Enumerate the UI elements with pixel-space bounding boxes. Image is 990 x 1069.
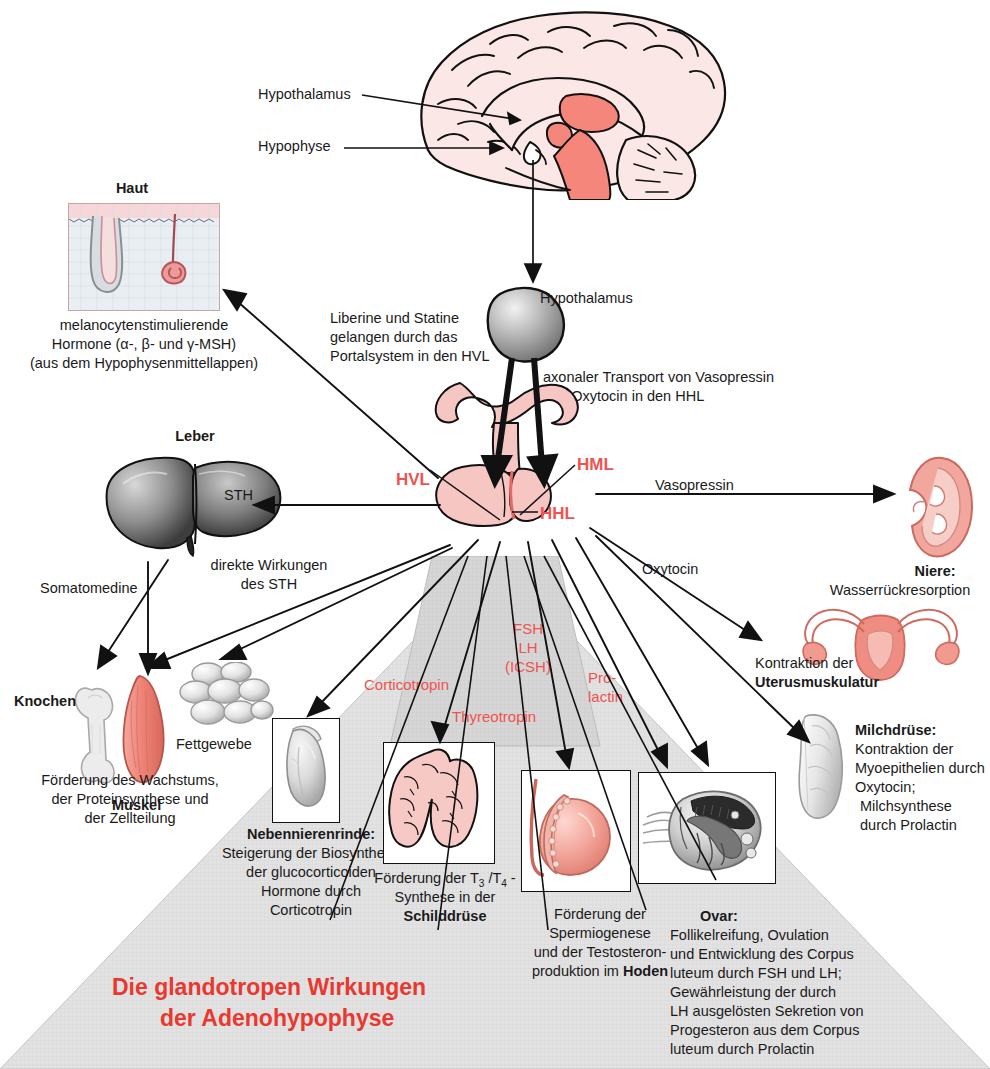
skin-caption-line1: melanocytenstimulierende [18,317,270,335]
ovary-caption-line5: LH ausgelösten Sekretion von [670,1003,863,1021]
mammary-caption-line3: Oxytocin; [855,779,915,797]
mammary-heading: Milchdrüse: [855,722,936,740]
skin-caption-line2: Hormone (α-, β- und γ-MSH) [18,336,270,354]
liver-illustration [95,450,285,560]
fat-tissue-illustration [178,662,274,734]
adrenal-gland-illustration [272,718,340,823]
testis-illustration [521,770,631,892]
portal-text-line2: gelangen durch das [330,329,457,347]
prolactin-label-line2: lactin [588,688,623,706]
prolactin-label-line1: Pro- [588,669,616,687]
thyroid-illustration [383,742,495,864]
brain-hypophyse-label: Hypophyse [258,138,331,156]
hhl-label: HHL [540,504,575,524]
growth-caption-line1: Förderung des Wachstums, [10,772,250,790]
ovary-caption-line1: Follikelreifung, Ovulation [670,927,829,945]
direct-effects-line2: des STH [194,576,344,594]
brain-hypothalamus-label: Hypothalamus [258,86,351,104]
kidney-heading: Niere: [880,563,990,581]
ovary-illustration [638,772,776,884]
ovary-heading: Ovar: [700,908,738,926]
ovary-caption-line6: Progesteron aus dem Corpus [670,1022,859,1040]
portal-text-line3: Portalsystem in den HVL [330,348,490,366]
mammary-caption-line1: Kontraktion der [855,741,953,759]
ovary-caption-line7: luteum durch Prolactin [670,1041,814,1059]
pituitary-illustration [400,365,620,535]
mammary-caption-line2: Myoepithelien durch [855,760,985,778]
ovary-caption-line2: und Entwicklung des Corpus [670,946,854,964]
center-hypothalamus-label: Hypothalamus [540,290,633,308]
kidney-caption: Wasserrückresorption [810,582,990,600]
skin-illustration [68,203,220,311]
kidney-illustration [898,452,976,562]
uterus-caption-line1: Kontraktion der [755,655,853,673]
liver-heading: Leber [140,428,250,446]
main-title-line1: Die glandotropen Wirkungen [112,972,426,1003]
corticotropin-label: Corticotropin [364,676,449,694]
uterus-caption-line2: Uterusmuskulatur [755,674,879,692]
oxytocin-label: Oxytocin [642,561,698,579]
mammary-caption-line4: Milchsynthese [860,798,952,816]
skin-heading: Haut [72,180,192,198]
direct-effects-line1: direkte Wirkungen [194,557,344,575]
brain-illustration [398,0,798,200]
portal-text-line1: Liberine und Statine [330,310,459,328]
fat-tissue-label: Fettgewebe [176,736,252,754]
thyreotropin-label: Thyreotropin [452,708,536,726]
mammary-caption-line5: durch Prolactin [860,817,957,835]
thyroid-caption-line2: Synthese in der [340,889,550,907]
hml-label: HML [577,455,614,475]
mammary-gland-illustration [790,712,852,822]
ovary-caption-line4: Gewährleistung der durch [670,984,836,1002]
testis-caption-line1: Förderung der [500,906,700,924]
vasopressin-label: Vasopressin [655,477,734,495]
growth-caption-line2: der Proteinsynthese und [10,791,250,809]
icsh-label: (ICSH) [488,658,568,676]
somatomedine-label: Somatomedine [40,580,138,598]
bone-label: Knochen [14,693,76,711]
hvl-label: HVL [396,470,430,490]
diagram-canvas: Hypothalamus Hypophyse Haut melanocytens… [0,0,990,1069]
lh-label: LH [498,639,558,657]
thyroid-caption-line1: Förderung der T3 /T4 - [340,870,550,890]
ovary-caption-line3: luteum durch FSH und LH; [670,965,842,983]
fsh-label: FSH [498,620,558,638]
skin-caption-line3: (aus dem Hypophysenmittellappen) [10,355,278,373]
main-title-line2: der Adenohypophyse [160,1003,394,1034]
sth-label: STH [224,487,253,505]
